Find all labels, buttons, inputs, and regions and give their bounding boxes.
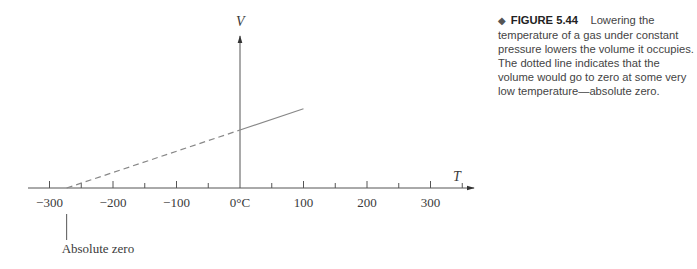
- figure-caption: ◆ FIGURE 5.44 Lowering the temperature o…: [498, 13, 694, 98]
- x-tick-label: 200: [357, 195, 377, 210]
- figure-label: FIGURE 5.44: [511, 14, 578, 26]
- volume-temperature-chart: −300−200−1000°C100200300 V T Absolute ze…: [0, 0, 490, 269]
- caption-text: Lowering the temperature of a gas under …: [498, 14, 694, 97]
- x-axis-label: T: [453, 169, 462, 184]
- x-tick-label: −300: [36, 195, 63, 210]
- x-tick-label: 100: [294, 195, 314, 210]
- x-tick-label: −100: [163, 195, 190, 210]
- absolute-zero-label: Absolute zero: [62, 241, 135, 256]
- extrapolated-dashed-line: [67, 130, 240, 188]
- x-axis-tick-labels: −300−200−1000°C100200300: [36, 195, 440, 210]
- x-tick-label: 300: [421, 195, 441, 210]
- measured-solid-line: [240, 109, 304, 130]
- diamond-icon: ◆: [498, 15, 506, 26]
- x-axis-ticks: [50, 181, 463, 188]
- x-tick-label: −200: [100, 195, 127, 210]
- x-tick-label: 0°C: [230, 195, 250, 210]
- y-axis-label: V: [236, 14, 246, 29]
